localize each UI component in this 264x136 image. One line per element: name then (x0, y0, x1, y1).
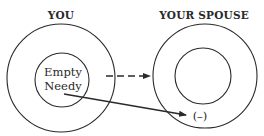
relationship-diagram: YOU Empty Needy YOUR SPOUSE (–) (0, 0, 264, 136)
solid-arrow (64, 94, 186, 115)
negative-marker: (–) (193, 109, 208, 123)
needy-label: Needy (44, 79, 82, 93)
you-title: YOU (47, 9, 74, 21)
spouse-inner-circle (175, 48, 231, 104)
spouse-title: YOUR SPOUSE (158, 9, 249, 21)
empty-label: Empty (44, 65, 82, 79)
